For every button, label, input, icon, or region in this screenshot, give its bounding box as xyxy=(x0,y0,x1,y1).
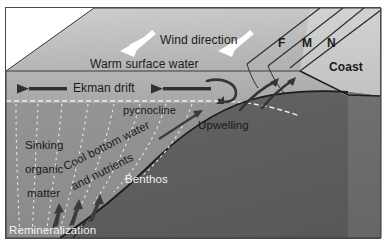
upwelling-block-diagram: Wind direction Warm surface water Ekman … xyxy=(0,0,391,246)
coast-front-face xyxy=(348,92,381,238)
diagram-canvas xyxy=(0,0,391,246)
